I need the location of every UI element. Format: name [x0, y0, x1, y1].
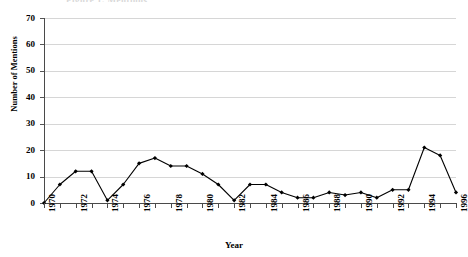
- x-tick-label-1970: 1970: [48, 194, 57, 212]
- x-tick-label-1976: 1976: [143, 194, 152, 212]
- x-tick-mark-1978: [171, 203, 172, 208]
- x-tick-mark-1992: [393, 203, 394, 208]
- x-tick-mark-1970: [44, 203, 45, 208]
- x-tick-mark-1980: [202, 203, 203, 208]
- x-tick-mark-1995: [440, 203, 441, 208]
- x-tick-mark-1988: [329, 203, 330, 208]
- x-tick-mark-1974: [107, 203, 108, 208]
- x-tick-label-1984: 1984: [270, 194, 279, 212]
- x-tick-label-1990: 1990: [365, 194, 374, 212]
- x-axis-title: Year: [0, 240, 468, 250]
- x-tick-mark-1985: [282, 203, 283, 208]
- y-tick-label-60: 60: [13, 40, 35, 49]
- y-tick-mark-20: [40, 150, 44, 151]
- chart-figure: Figure 1. Mentions Number of Mentions 01…: [0, 0, 468, 257]
- x-tick-mark-1973: [92, 203, 93, 208]
- x-tick-mark-1976: [139, 203, 140, 208]
- x-tick-mark-1991: [377, 203, 378, 208]
- y-tick-label-10: 10: [13, 172, 35, 181]
- y-tick-mark-60: [40, 44, 44, 45]
- y-tick-label-50: 50: [13, 66, 35, 75]
- x-tick-mark-1986: [298, 203, 299, 208]
- x-tick-label-1986: 1986: [302, 194, 311, 212]
- x-tick-mark-1984: [266, 203, 267, 208]
- x-tick-label-1978: 1978: [175, 194, 184, 212]
- x-tick-mark-1996: [456, 203, 457, 208]
- y-tick-label-70: 70: [13, 14, 35, 23]
- y-tick-mark-50: [40, 71, 44, 72]
- x-tick-mark-1994: [424, 203, 425, 208]
- x-tick-label-1980: 1980: [206, 194, 215, 212]
- y-tick-label-0: 0: [13, 199, 35, 208]
- x-tick-mark-1977: [155, 203, 156, 208]
- y-tick-label-40: 40: [13, 93, 35, 102]
- x-tick-label-1988: 1988: [333, 194, 342, 212]
- y-tick-mark-40: [40, 97, 44, 98]
- x-tick-mark-1971: [60, 203, 61, 208]
- y-tick-label-30: 30: [13, 119, 35, 128]
- x-tick-label-1994: 1994: [428, 194, 437, 212]
- x-tick-mark-1981: [218, 203, 219, 208]
- x-tick-label-1974: 1974: [111, 194, 120, 212]
- x-tick-mark-1982: [234, 203, 235, 208]
- x-tick-mark-1990: [361, 203, 362, 208]
- x-tick-label-1972: 1972: [80, 194, 89, 212]
- y-tick-mark-70: [40, 18, 44, 19]
- x-tick-mark-1993: [408, 203, 409, 208]
- x-tick-mark-1987: [313, 203, 314, 208]
- x-tick-mark-1989: [345, 203, 346, 208]
- x-tick-mark-1975: [123, 203, 124, 208]
- y-tick-mark-10: [40, 177, 44, 178]
- x-tick-mark-1983: [250, 203, 251, 208]
- x-tick-label-1982: 1982: [238, 194, 247, 212]
- y-tick-label-20: 20: [13, 146, 35, 155]
- x-tick-mark-1972: [76, 203, 77, 208]
- x-tick-label-1992: 1992: [397, 194, 406, 212]
- x-tick-label-1996: 1996: [460, 194, 468, 212]
- x-tick-mark-1979: [187, 203, 188, 208]
- y-tick-mark-30: [40, 124, 44, 125]
- y-axis-ticks: 010203040506070: [0, 0, 468, 257]
